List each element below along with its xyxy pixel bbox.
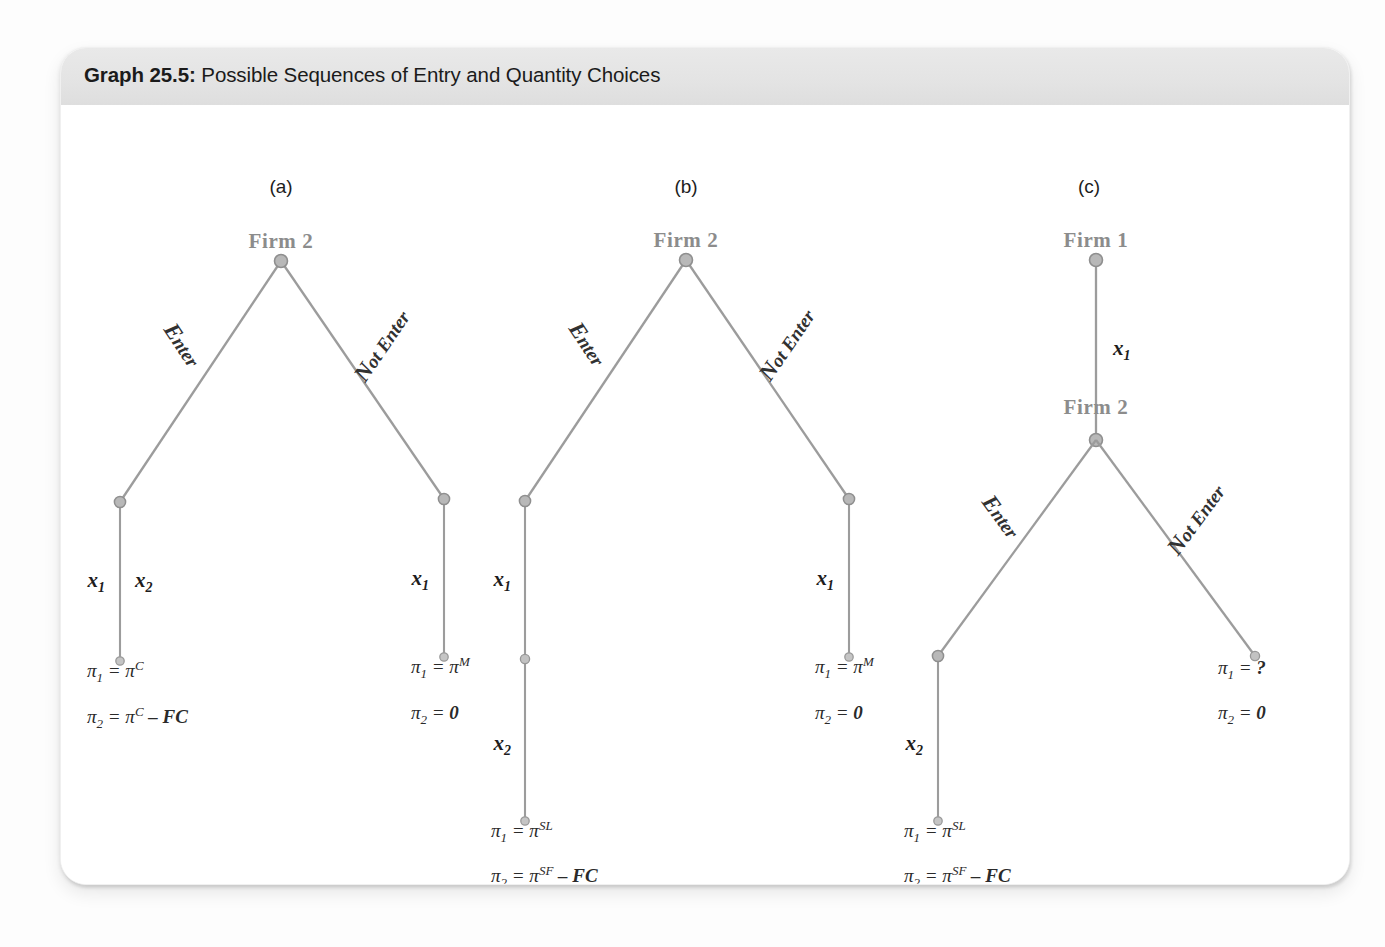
panel-b-right-payoff-1: π1 = πM bbox=[815, 654, 875, 681]
panel-c-second-firm-label: Firm 2 bbox=[1064, 395, 1129, 419]
panel-b-right-node bbox=[843, 493, 854, 504]
panel-b-branch-label-not-enter: Not Enter bbox=[753, 304, 820, 386]
panel-a-right-payoff-1: π1 = πM bbox=[411, 654, 471, 681]
caption-title: Possible Sequences of Entry and Quantity… bbox=[201, 63, 660, 86]
game-tree-diagram: (a) Firm 2 Enter Not Enter bbox=[61, 105, 1349, 884]
caption-label: Graph 25.5: bbox=[84, 63, 196, 86]
panel-b-branch-label-enter: Enter bbox=[563, 317, 611, 371]
page-background: Graph 25.5: Possible Sequences of Entry … bbox=[0, 0, 1385, 947]
panel-c-root-node bbox=[1090, 254, 1103, 267]
panel-a-branch-label-enter: Enter bbox=[158, 318, 206, 372]
panel-b-quantity-x2: x2 bbox=[493, 731, 512, 758]
panel-b-right-payoff-2: π2 = 0 bbox=[815, 702, 863, 727]
panel-a-root-firm-label: Firm 2 bbox=[249, 229, 314, 253]
panel-b-left-node-middle bbox=[520, 654, 529, 663]
figure-card: Graph 25.5: Possible Sequences of Entry … bbox=[60, 47, 1350, 885]
panel-b-edge-enter bbox=[525, 260, 686, 501]
panel-c-branch-label-enter: Enter bbox=[976, 489, 1025, 543]
panel-a-label: (a) bbox=[269, 176, 292, 197]
panel-c-left-payoff-2: π2 = πSF – FC bbox=[904, 863, 1011, 884]
panel-a-right-payoff-2: π2 = 0 bbox=[411, 702, 459, 727]
panel-a-quantity-x1: x1 bbox=[87, 568, 106, 595]
panel-a: (a) Firm 2 Enter Not Enter bbox=[87, 176, 471, 731]
panel-b-label: (b) bbox=[674, 176, 697, 197]
panel-c-branch-label-not-enter: Not Enter bbox=[1161, 479, 1230, 560]
panel-b-root-node bbox=[680, 254, 693, 267]
panel-a-left-payoff-1: π1 = πC bbox=[87, 658, 144, 685]
caption-bar: Graph 25.5: Possible Sequences of Entry … bbox=[61, 48, 1349, 106]
panel-b-quantity-x1: x1 bbox=[493, 567, 512, 594]
figure-caption: Graph 25.5: Possible Sequences of Entry … bbox=[84, 63, 660, 87]
panel-c-edge-enter bbox=[938, 440, 1096, 656]
panel-a-left-node bbox=[114, 496, 125, 507]
panel-a-quantity-x2: x2 bbox=[134, 568, 153, 595]
panel-b: (b) Firm 2 Enter Not Enter x1 x2 π bbox=[491, 176, 875, 884]
panel-c-root-firm-label: Firm 1 bbox=[1064, 228, 1129, 252]
panel-a-left-payoff-2: π2 = πC – FC bbox=[87, 704, 188, 731]
panel-c-label: (c) bbox=[1078, 176, 1100, 197]
panel-a-right-quantity-x1: x1 bbox=[411, 566, 430, 593]
panel-a-right-node bbox=[438, 493, 449, 504]
panel-c-right-payoff-1: π1 = ? bbox=[1218, 657, 1266, 682]
panel-c-left-node bbox=[932, 650, 943, 661]
panel-c-quantity-x2: x2 bbox=[905, 731, 924, 758]
panel-b-right-quantity-x1: x1 bbox=[816, 566, 835, 593]
panel-c-right-payoff-2: π2 = 0 bbox=[1218, 702, 1266, 727]
plot-area: (a) Firm 2 Enter Not Enter bbox=[61, 105, 1349, 884]
panel-c-quantity-x1: x1 bbox=[1112, 336, 1131, 363]
panel-a-edge-enter bbox=[120, 261, 281, 502]
panel-b-left-node-upper bbox=[519, 495, 530, 506]
panel-b-root-firm-label: Firm 2 bbox=[654, 228, 719, 252]
panel-a-root-node bbox=[275, 255, 288, 268]
panel-b-left-payoff-1: π1 = πSL bbox=[491, 818, 553, 845]
panel-c-left-payoff-1: π1 = πSL bbox=[904, 818, 966, 845]
panel-b-left-payoff-2: π2 = πSF – FC bbox=[491, 863, 598, 884]
panel-a-branch-label-not-enter: Not Enter bbox=[348, 305, 415, 387]
panel-c: (c) Firm 1 x1 Firm 2 Enter Not Enter bbox=[904, 176, 1266, 884]
